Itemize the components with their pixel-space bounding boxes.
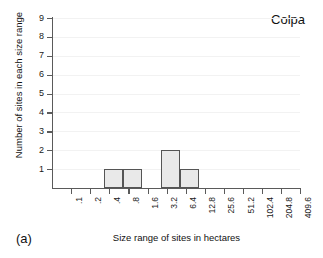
x-axis-tick: [281, 189, 282, 194]
gridline: [52, 131, 300, 132]
y-axis-line: [52, 17, 53, 189]
plot-area: [52, 18, 300, 188]
x-axis-tick-label: 3.2: [170, 197, 179, 209]
x-axis-tick: [224, 189, 225, 194]
y-axis-tick: [47, 131, 52, 132]
x-axis-tick: [90, 189, 91, 194]
x-axis-tick: [205, 189, 206, 194]
x-axis-tick-label: 12.8: [208, 197, 217, 214]
gridline: [52, 112, 300, 113]
gridline: [52, 56, 300, 57]
y-axis-tick-label: 7: [24, 51, 44, 60]
x-axis-tick-label: 1.6: [151, 197, 160, 209]
x-axis-tick-label: .8: [132, 197, 141, 204]
bar: [180, 169, 199, 188]
x-axis-tick: [128, 189, 129, 194]
y-axis-tick-label: 5: [24, 89, 44, 98]
y-axis-tick-label: 2: [24, 146, 44, 155]
y-axis-tick: [47, 56, 52, 57]
x-axis-tick: [109, 189, 110, 194]
gridline: [52, 75, 300, 76]
bar: [104, 169, 123, 188]
x-axis-tick-label: .2: [94, 197, 103, 204]
y-axis-tick-label: 4: [24, 108, 44, 117]
y-axis-tick: [47, 94, 52, 95]
y-axis-tick-label: 9: [24, 14, 44, 23]
panel-label: (a): [16, 231, 32, 246]
y-axis-tick-label: 1: [24, 165, 44, 174]
x-axis-tick-label: 102.4: [266, 197, 275, 218]
gridline: [52, 18, 300, 19]
x-axis-tick-label: 409.6: [304, 197, 313, 218]
x-axis-title: Size range of sites in hectares: [52, 232, 301, 244]
chart-figure: Colpa Number of sites in each size range…: [0, 0, 323, 258]
x-axis-tick-label: .1: [75, 197, 84, 204]
y-axis-tick-label: 8: [24, 32, 44, 41]
x-axis-tick: [243, 189, 244, 194]
x-axis-tick: [167, 189, 168, 194]
y-axis-tick: [47, 169, 52, 170]
y-axis-tick: [47, 18, 52, 19]
x-axis-tick: [300, 189, 301, 194]
y-axis-tick: [47, 112, 52, 113]
bar: [161, 150, 180, 188]
y-axis-title: Number of sites in each size range: [12, 0, 26, 170]
gridline: [52, 37, 300, 38]
y-axis-tick-label: 6: [24, 70, 44, 79]
y-axis-tick: [47, 150, 52, 151]
x-axis-tick: [71, 189, 72, 194]
x-axis-tick-label: 204.8: [285, 197, 294, 218]
y-axis-tick: [47, 37, 52, 38]
x-axis-tick-label: 6.4: [189, 197, 198, 209]
bar: [123, 169, 142, 188]
x-axis-tick: [148, 189, 149, 194]
x-axis-tick-label: 25.6: [227, 197, 236, 214]
y-axis-tick: [47, 75, 52, 76]
gridline: [52, 94, 300, 95]
x-axis-tick-label: 51.2: [247, 197, 256, 214]
x-axis-tick: [186, 189, 187, 194]
y-axis-tick-label: 3: [24, 127, 44, 136]
x-axis-tick-label: .4: [113, 197, 122, 204]
x-axis-tick: [262, 189, 263, 194]
